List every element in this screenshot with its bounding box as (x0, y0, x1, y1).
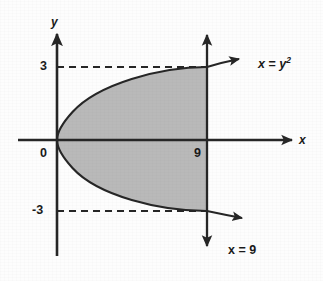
graph-figure: 3 -3 0 9 y x x = y2 x = 9 (0, 0, 323, 281)
graph-canvas (0, 0, 323, 281)
curve-label-base: x (258, 57, 265, 71)
curve-label-exponent: 2 (286, 55, 291, 65)
x-axis-label: x (299, 134, 306, 146)
y-tick-label-3: 3 (40, 60, 47, 73)
x-tick-label-9: 9 (194, 147, 201, 160)
origin-label: 0 (40, 147, 47, 160)
curve-label-x-equals-y-squared: x = y2 (258, 58, 291, 71)
y-tick-label-minus-3: -3 (32, 204, 43, 217)
curve-label-equals: = (265, 57, 279, 71)
line-label-x-equals-9: x = 9 (228, 244, 256, 257)
y-axis-label: y (51, 16, 58, 28)
